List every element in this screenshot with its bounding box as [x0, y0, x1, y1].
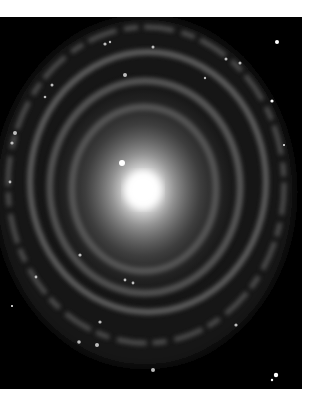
foreground-star [119, 160, 125, 166]
galaxy-image [0, 17, 302, 389]
galaxy-photo: Spiral galaxy with a bright central bulg… [0, 17, 302, 389]
